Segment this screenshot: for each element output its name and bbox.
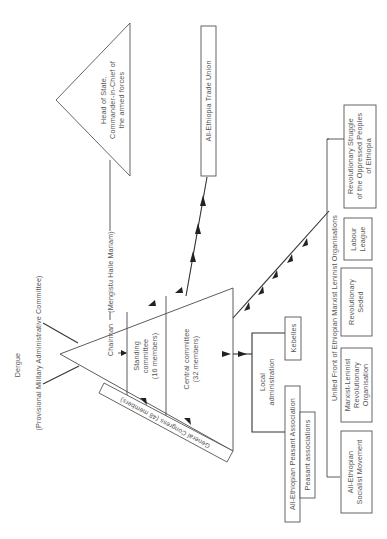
- trade-union-arrow-3: [190, 251, 196, 262]
- trade-union-link: [186, 177, 207, 296]
- edge-arrow-2: [175, 287, 183, 293]
- peasant-associations-label: Peasant associations: [303, 419, 312, 490]
- peasant-association-label: All-Ethiopian Peasant Association: [288, 398, 297, 510]
- local-admin-label: Local administration: [258, 359, 276, 406]
- svg-text:Marxist-Leninist: Marxist-Leninist: [343, 359, 352, 412]
- trade-union-box: All-Ethiopia Trade Union: [201, 26, 216, 176]
- kebeles-box: Kebelles: [285, 317, 301, 360]
- local-arrow-2: [238, 351, 247, 357]
- dergue-triangle: General Congress (48 members): [60, 288, 233, 462]
- general-congress-label: General Congress (48 members): [119, 396, 212, 450]
- united-front-group: United Front of Ethiopian Marxist Lenini…: [327, 105, 376, 513]
- svg-text:Revolutionary Struggle: Revolutionary Struggle: [346, 118, 355, 194]
- svg-text:administration: administration: [267, 359, 276, 406]
- organisation-diagram: Dergue (Provisional Military Administrat…: [0, 0, 387, 539]
- bracket-line-lower: [43, 366, 79, 384]
- dergue-title: Dergue: [13, 353, 22, 377]
- svg-text:committee: committee: [141, 339, 150, 374]
- svg-text:Standing: Standing: [132, 341, 141, 371]
- front-arrow-4: [287, 254, 293, 263]
- front-arrow-1: [244, 302, 250, 311]
- svg-text:Commander-in-Chief of: Commander-in-Chief of: [108, 61, 117, 139]
- standing-committee: Standing committee (16 members): [132, 333, 159, 380]
- united-front-link: [233, 211, 329, 318]
- head-of-state-triangle: Head of State, Commander-in-Chief of the…: [56, 23, 130, 176]
- svg-text:Central committee: Central committee: [182, 329, 191, 390]
- peasant-associations-box: Peasant associations: [300, 412, 315, 498]
- edge-arrow-1: [148, 300, 156, 306]
- trade-union-arrow-1: [200, 195, 206, 206]
- svg-text:the armed forces: the armed forces: [117, 72, 126, 129]
- svg-text:Revolutionary: Revolutionary: [347, 279, 356, 325]
- svg-text:Revolutionary: Revolutionary: [352, 362, 361, 408]
- trade-union-arrow-2: [195, 223, 201, 234]
- svg-text:Socialist Movement: Socialist Movement: [355, 439, 364, 504]
- peasant-association-box: All-Ethiopian Peasant Association: [285, 386, 300, 522]
- local-arrow-1: [222, 351, 231, 357]
- dergue-label: Dergue (Provisional Military Administrat…: [13, 275, 43, 430]
- svg-text:of Ethiopia: of Ethiopia: [364, 138, 373, 174]
- svg-text:Head of State,: Head of State,: [99, 76, 108, 124]
- chairman-label: Chairman: [106, 324, 115, 356]
- chairman-name: (Mengistu Haile Mariam): [106, 231, 115, 313]
- svg-text:of the Oppressed Peoples: of the Oppressed Peoples: [355, 112, 364, 199]
- svg-text:Local: Local: [258, 373, 267, 391]
- kebeles-label: Kebelles: [289, 323, 298, 352]
- chairman-arrow-head: [121, 350, 127, 356]
- central-committee: Central committee (32 members): [182, 329, 200, 390]
- dergue-subtitle: (Provisional Military Administrative Com…: [34, 275, 43, 430]
- svg-text:(32 members): (32 members): [191, 336, 200, 383]
- svg-text:Seded: Seded: [356, 291, 365, 313]
- svg-text:All-Ethiopian: All-Ethiopian: [346, 451, 355, 493]
- svg-text:Organisation: Organisation: [361, 364, 370, 407]
- svg-text:League: League: [358, 227, 367, 252]
- united-front-label: United Front of Ethiopian Marxist Lenini…: [330, 215, 339, 401]
- svg-text:Labour: Labour: [349, 227, 358, 251]
- trade-union-label: All-Ethiopia Trade Union: [204, 60, 213, 141]
- bracket-line-upper: [43, 323, 78, 343]
- svg-text:(16 members): (16 members): [150, 333, 159, 380]
